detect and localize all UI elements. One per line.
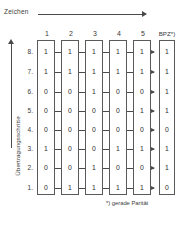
data-cell: 1 xyxy=(85,164,103,172)
data-cell: 1 xyxy=(133,145,151,153)
left-axis-label: Übertragungsschritte xyxy=(14,108,21,184)
left-axis-arrow-icon xyxy=(11,44,12,148)
data-cell: 1 xyxy=(109,145,127,153)
data-cell: 1 xyxy=(61,48,79,56)
parity-diagram: Zeichen Übertragungsschritte 12345BPZ*)8… xyxy=(0,0,184,225)
data-cell: 1 xyxy=(85,48,103,56)
parity-cell: 0 xyxy=(159,126,175,134)
row-label: 5. xyxy=(22,107,33,114)
data-cell: 0 xyxy=(37,126,55,134)
data-cell: 1 xyxy=(133,184,151,192)
data-cell: 0 xyxy=(61,164,79,172)
row-label: 6. xyxy=(22,88,33,95)
data-cell: 0 xyxy=(61,145,79,153)
row-label: 7. xyxy=(22,68,33,75)
data-cell: 1 xyxy=(133,68,151,76)
data-cell: 0 xyxy=(61,88,79,96)
row-result-arrow-icon xyxy=(151,168,154,169)
column-header-3: 3 xyxy=(85,30,105,37)
data-cell: 1 xyxy=(85,184,103,192)
data-cell: 1 xyxy=(109,48,127,56)
data-cell: 1 xyxy=(61,68,79,76)
data-cell: 0 xyxy=(133,126,151,134)
data-cell: 0 xyxy=(85,145,103,153)
data-cell: 1 xyxy=(85,68,103,76)
data-cell: 0 xyxy=(37,107,55,115)
data-cell: 1 xyxy=(109,68,127,76)
parity-cell: 1 xyxy=(159,145,175,153)
column-header-5: 5 xyxy=(133,30,153,37)
data-cell: 1 xyxy=(133,48,151,56)
row-label: 4. xyxy=(22,126,33,133)
parity-cell: 0 xyxy=(159,184,175,192)
data-cell: 0 xyxy=(37,184,55,192)
data-cell: 0 xyxy=(85,107,103,115)
parity-cell: 1 xyxy=(159,68,175,76)
data-cell: 1 xyxy=(37,68,55,76)
data-cell: 0 xyxy=(109,126,127,134)
parity-cell: 1 xyxy=(159,107,175,115)
top-axis-label: Zeichen xyxy=(4,8,29,15)
data-cell: 0 xyxy=(133,88,151,96)
data-cell: 0 xyxy=(61,107,79,115)
data-cell: 0 xyxy=(109,107,127,115)
data-cell: 0 xyxy=(133,164,151,172)
column-header-bpz: BPZ*) xyxy=(151,30,183,37)
data-cell: 0 xyxy=(37,88,55,96)
row-label: 2. xyxy=(22,164,33,171)
data-cell: 0 xyxy=(37,164,55,172)
data-cell: 1 xyxy=(61,184,79,192)
row-result-arrow-icon xyxy=(151,149,154,150)
row-result-arrow-icon xyxy=(151,92,154,93)
data-cell: 1 xyxy=(37,145,55,153)
row-result-arrow-icon xyxy=(151,130,154,131)
top-axis-arrow-icon xyxy=(38,14,146,15)
data-cell: 0 xyxy=(109,164,127,172)
column-header-1: 1 xyxy=(37,30,57,37)
parity-cell: 1 xyxy=(159,164,175,172)
parity-cell: 1 xyxy=(159,88,175,96)
column-header-4: 4 xyxy=(109,30,129,37)
column-header-2: 2 xyxy=(61,30,81,37)
row-result-arrow-icon xyxy=(151,111,154,112)
row-label: 1. xyxy=(22,184,33,191)
data-cell: 0 xyxy=(61,126,79,134)
parity-cell: 1 xyxy=(159,48,175,56)
row-result-arrow-icon xyxy=(151,52,154,53)
row-label: 3. xyxy=(22,145,33,152)
data-cell: 1 xyxy=(133,107,151,115)
row-result-arrow-icon xyxy=(151,188,154,189)
row-label: 8. xyxy=(22,48,33,55)
data-cell: 1 xyxy=(85,88,103,96)
footnote: *) gerade Parität xyxy=(106,200,148,206)
data-cell: 1 xyxy=(37,48,55,56)
row-result-arrow-icon xyxy=(151,72,154,73)
data-cell: 0 xyxy=(85,126,103,134)
data-cell: 0 xyxy=(109,88,127,96)
data-cell: 1 xyxy=(109,184,127,192)
